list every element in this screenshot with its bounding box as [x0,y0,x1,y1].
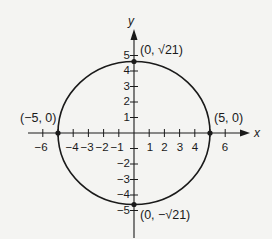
x-tick-label: −2 [95,142,108,154]
y-tick-label: 4 [124,65,130,77]
y-tick-label: 1 [124,112,130,124]
x-tick-label: 3 [177,142,183,154]
y-tick-label: 2 [124,96,130,108]
x-tick-label: −4 [65,142,78,154]
ellipse-diagram: y x −6 −4 −3 −2 −1 1 2 3 4 6 5 4 3 2 1 −… [0,0,272,239]
x-tick-label: 1 [147,142,153,154]
point-label-top: (0, √21) [140,44,183,57]
y-tick-label: 5 [124,50,130,62]
point-label-left: (−5, 0) [20,112,56,125]
point-right [207,130,212,135]
x-axis-arrow-icon [240,130,250,137]
point-label-bottom: (0, −√21) [140,209,190,222]
x-tick-label: −3 [80,142,93,154]
x-axis-label: x [254,127,260,139]
y-tick-label: −2 [117,158,130,170]
point-bottom [131,202,136,207]
y-axis-arrow-icon [131,29,138,40]
y-tick-label: −3 [117,174,130,186]
x-axis [28,129,250,137]
x-tick-label: 2 [161,142,167,154]
y-tick-label: 3 [124,81,130,93]
x-tick-label: 6 [222,142,228,154]
x-tick-label: −1 [110,142,123,154]
y-tick-label: −5 [117,205,130,217]
y-axis-label: y [128,15,134,27]
point-label-right: (5, 0) [214,112,243,125]
x-tick-label: 4 [192,142,198,154]
point-left [55,130,60,135]
x-tick-label: −6 [34,142,47,154]
y-tick-label: −4 [117,189,130,201]
point-top [131,59,136,64]
